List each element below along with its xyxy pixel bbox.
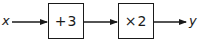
output-label-y: y [189,14,197,28]
step-operation-label: ×2 [125,13,148,29]
step-operation-label: +3 [55,13,78,29]
input-label-x: x [2,14,10,28]
step-box-add-3: +3 [48,3,84,39]
flow-arrows [0,0,202,43]
step-box-multiply-2: ×2 [118,3,154,39]
